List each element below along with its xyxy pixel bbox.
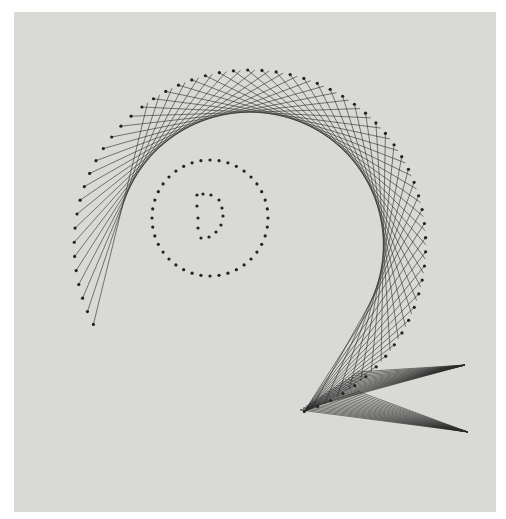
string-art	[0, 0, 506, 519]
